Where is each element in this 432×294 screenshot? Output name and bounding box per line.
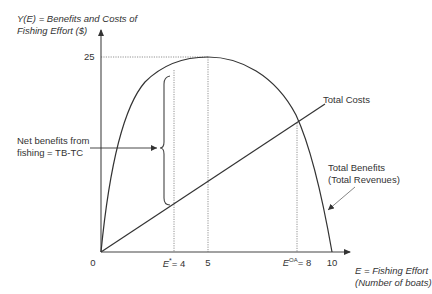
total-costs-line: [101, 104, 325, 252]
x-tick-e-star: E*= 4: [163, 257, 186, 269]
y-axis-title-line-1: Y(E) = Benefits and Costs of: [17, 13, 137, 25]
total-costs-label: Total Costs: [323, 94, 370, 106]
x-tick-e-oa: EOA= 8: [283, 257, 312, 268]
net-benefits-brace: [160, 76, 170, 205]
x-axis-title-line-1: E = Fishing Effort: [355, 265, 432, 277]
e-oa-rest: = 8: [298, 257, 311, 268]
y-tick-25: 25: [84, 51, 95, 63]
x-tick-5: 5: [205, 257, 210, 268]
net-benefits-label: Net benefits from fishing = TB-TC: [17, 135, 89, 159]
total-benefits-label-line-1: Total Benefits: [328, 162, 400, 174]
net-benefits-label-line-2: fishing = TB-TC: [17, 147, 89, 159]
e-oa-sup: OA: [289, 257, 298, 263]
x-axis-title: E = Fishing Effort (Number of boats): [355, 265, 432, 289]
x-tick-10: 10: [327, 257, 338, 268]
y-axis-title: Y(E) = Benefits and Costs of Fishing Eff…: [17, 13, 137, 37]
total-benefits-label-line-2: (Total Revenues): [328, 174, 400, 186]
total-benefits-label: Total Benefits (Total Revenues): [328, 162, 400, 186]
x-tick-0: 0: [90, 257, 95, 268]
dotted-guides: [101, 57, 297, 252]
e-star-rest: = 4: [172, 258, 185, 269]
y-axis-title-line-2: Fishing Effort ($): [17, 25, 137, 37]
total-benefits-arrow: [328, 187, 355, 210]
net-benefits-label-line-1: Net benefits from: [17, 135, 89, 147]
x-axis-title-line-2: (Number of boats): [355, 277, 432, 289]
